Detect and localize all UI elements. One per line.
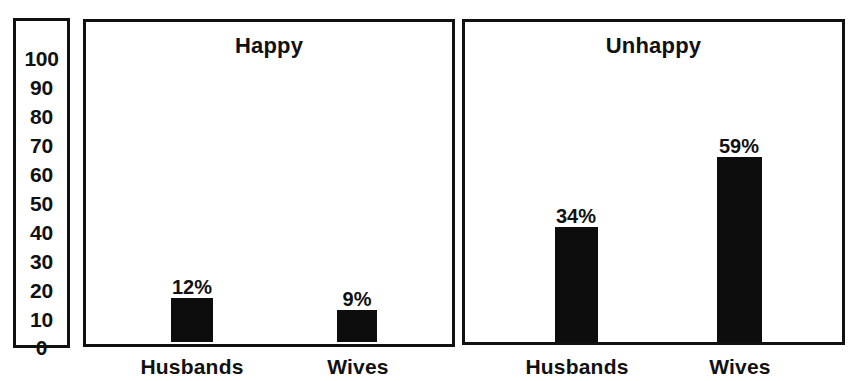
panel-happy: Happy <box>83 19 455 347</box>
y-axis-tick: 40 <box>16 222 67 243</box>
bar-value-happy-husbands: 12% <box>172 277 212 297</box>
y-axis-tick: 30 <box>16 251 67 272</box>
y-axis-tick: 0 <box>16 337 67 358</box>
y-axis-tick: 20 <box>16 280 67 301</box>
bar-happy-husbands <box>171 298 213 342</box>
y-axis-tick: 80 <box>16 106 67 127</box>
category-label-unhappy-wives: Wives <box>709 356 771 377</box>
chart-canvas: 100 90 80 70 60 50 40 30 20 10 0 Happy U… <box>0 0 857 381</box>
y-axis-tick: 70 <box>16 135 67 156</box>
bar-unhappy-wives <box>717 157 762 342</box>
category-label-unhappy-husbands: Husbands <box>525 356 628 377</box>
bar-value-unhappy-wives: 59% <box>719 136 759 156</box>
bar-unhappy-husbands <box>555 227 598 342</box>
y-axis-tick: 100 <box>16 48 67 69</box>
y-axis-tick: 90 <box>16 77 67 98</box>
bar-happy-wives <box>337 310 377 342</box>
y-axis-tick: 60 <box>16 164 67 185</box>
category-label-happy-wives: Wives <box>327 356 389 377</box>
bar-value-happy-wives: 9% <box>343 289 372 309</box>
y-axis-scale-box: 100 90 80 70 60 50 40 30 20 10 0 <box>13 18 70 348</box>
panel-title-happy: Happy <box>86 35 452 57</box>
bar-value-unhappy-husbands: 34% <box>556 206 596 226</box>
category-label-happy-husbands: Husbands <box>140 356 243 377</box>
y-axis-tick: 50 <box>16 193 67 214</box>
panel-title-unhappy: Unhappy <box>465 35 842 57</box>
y-axis-tick: 10 <box>16 309 67 330</box>
panel-unhappy: Unhappy <box>462 19 845 345</box>
